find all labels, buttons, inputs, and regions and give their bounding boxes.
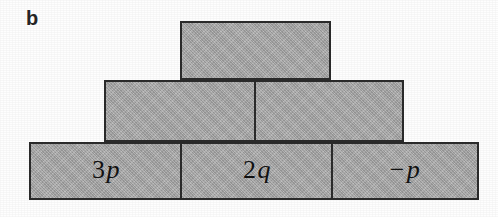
brick-variable-middle-1	[180, 95, 181, 124]
brick-number-bottom-2: 2	[243, 155, 257, 184]
brick-label-bottom-3: −p	[390, 157, 421, 183]
pyramid-brick-bottom-2[interactable]: 2q	[180, 142, 333, 200]
brick-operator-bottom-3: −	[390, 155, 406, 184]
pyramid-brick-bottom-3[interactable]: −p	[331, 142, 479, 200]
brick-variable-middle-2	[329, 95, 330, 124]
pyramid-brick-middle-1[interactable]	[104, 80, 256, 142]
brick-variable-bottom-3: p	[406, 155, 421, 184]
brick-variable-bottom-1: p	[106, 155, 121, 184]
brick-label-top-1	[255, 37, 257, 63]
brick-label-middle-1	[179, 97, 181, 123]
panel-label-b: b	[26, 8, 38, 28]
brick-label-bottom-2: 2q	[242, 157, 271, 183]
algebra-pyramid-figure: b 3p 2q −p	[0, 0, 498, 217]
pyramid-brick-middle-2[interactable]	[254, 80, 404, 142]
pyramid-brick-top-1[interactable]	[180, 21, 331, 80]
brick-variable-top-1	[256, 35, 257, 64]
brick-label-middle-2	[328, 97, 330, 123]
brick-number-bottom-1: 3	[92, 155, 106, 184]
brick-variable-bottom-2: q	[257, 155, 272, 184]
brick-label-bottom-1: 3p	[91, 157, 120, 183]
pyramid-brick-bottom-1[interactable]: 3p	[29, 142, 182, 200]
